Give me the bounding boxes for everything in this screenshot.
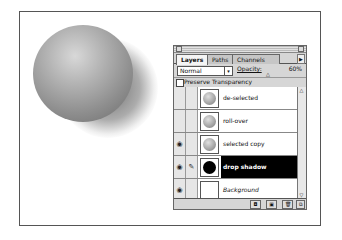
black-circle-thumb-icon: [203, 161, 216, 174]
tab-channels[interactable]: Channels: [232, 54, 280, 64]
paintbrush-icon[interactable]: ✎: [186, 156, 198, 178]
tab-layers[interactable]: Layers: [176, 54, 208, 65]
layer-row-drop-shadow[interactable]: ◉ ✎ drop shadow: [174, 156, 299, 179]
resize-grip-icon[interactable]: ⧉: [296, 200, 305, 209]
eye-icon[interactable]: ◉: [174, 156, 186, 178]
layer-thumbnail: [200, 135, 219, 154]
palette-menu-arrow-icon[interactable]: ▶: [297, 54, 305, 64]
layer-list-scrollbar[interactable]: △ ▽: [297, 87, 306, 199]
layer-row-de-selected[interactable]: de-selected: [174, 87, 299, 110]
visibility-toggle[interactable]: [174, 87, 186, 109]
layer-thumbnail: [200, 89, 219, 108]
blend-opacity-row: Normal ▾ Opacity: 60% △: [174, 64, 306, 77]
brush-link-toggle[interactable]: [186, 133, 198, 155]
rendered-sphere: [33, 25, 133, 122]
palette-tabs: Layers Paths Channels ▶: [174, 53, 306, 64]
zoom-box-icon[interactable]: [298, 46, 304, 52]
blend-mode-value: Normal: [180, 67, 202, 74]
close-box-icon[interactable]: [176, 46, 182, 52]
sphere-thumb-icon: [203, 138, 216, 151]
opacity-value[interactable]: 60%: [289, 65, 302, 72]
visibility-toggle[interactable]: [174, 110, 186, 132]
preserve-transparency-label: Preserve Transparency: [184, 78, 252, 85]
sphere-thumb-icon: [203, 115, 216, 128]
layer-thumbnail: [200, 112, 219, 131]
palette-bottom-bar: ◘ ▣ 🗑 ⧉: [174, 198, 306, 209]
palette-titlebar[interactable]: [174, 46, 306, 53]
brush-link-toggle[interactable]: [186, 110, 198, 132]
tab-paths[interactable]: Paths: [207, 54, 233, 64]
layer-name: de-selected: [221, 87, 299, 109]
sphere-thumb-icon: [203, 92, 216, 105]
layer-row-selected-copy[interactable]: ◉ selected copy: [174, 133, 299, 156]
layer-thumbnail: [200, 158, 219, 177]
layer-row-roll-over[interactable]: roll-over: [174, 110, 299, 133]
layers-palette: Layers Paths Channels ▶ Normal ▾ Opacity…: [173, 45, 307, 210]
layer-name: drop shadow: [221, 156, 299, 178]
scroll-up-icon[interactable]: △: [298, 87, 305, 94]
layer-mask-button-icon[interactable]: ◘: [250, 200, 261, 209]
trash-icon[interactable]: 🗑: [282, 200, 293, 209]
layer-list: de-selected roll-over ◉ selected copy ◉ …: [174, 87, 299, 199]
layer-name: selected copy: [221, 133, 299, 155]
chevron-down-icon: ▾: [224, 67, 232, 75]
layer-name: roll-over: [221, 110, 299, 132]
brush-link-toggle[interactable]: [186, 87, 198, 109]
blend-mode-select[interactable]: Normal ▾: [177, 66, 233, 76]
preserve-transparency-checkbox[interactable]: [176, 79, 184, 87]
opacity-label: Opacity:: [237, 65, 262, 72]
eye-icon[interactable]: ◉: [174, 133, 186, 155]
new-layer-button-icon[interactable]: ▣: [266, 200, 277, 209]
